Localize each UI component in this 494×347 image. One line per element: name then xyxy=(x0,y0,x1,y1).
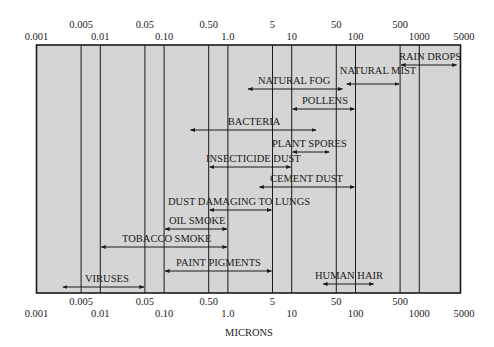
range-label: PLANT SPORES xyxy=(272,138,347,149)
tick-label-top: 50 xyxy=(331,19,342,30)
range-label: RAIN DROPS xyxy=(399,51,461,62)
tick-label-bottom: 0.05 xyxy=(136,296,154,307)
particle-size-chart: 0.0050.050.505505000.0010.010.101.010100… xyxy=(0,0,494,347)
x-axis-title: MICRONS xyxy=(225,327,273,338)
tick-label-bottom: 0.50 xyxy=(200,296,218,307)
tick-label-top: 0.50 xyxy=(200,19,218,30)
tick-label-top: 1.0 xyxy=(221,31,234,42)
tick-label-bottom: 5 xyxy=(270,296,275,307)
range-label: BACTERIA xyxy=(228,116,281,127)
range-label: PAINT PIGMENTS xyxy=(176,257,261,268)
range-label: POLLENS xyxy=(302,95,348,106)
tick-label-bottom: 0.001 xyxy=(25,308,49,319)
tick-label-bottom: 5000 xyxy=(453,308,474,319)
range-label: HUMAN HAIR xyxy=(315,270,383,281)
tick-label-top: 0.05 xyxy=(136,19,154,30)
tick-label-top: 0.01 xyxy=(91,31,109,42)
range-label: OIL SMOKE xyxy=(169,215,225,226)
tick-label-top: 5 xyxy=(270,19,275,30)
tick-label-top: 0.001 xyxy=(25,31,49,42)
tick-label-bottom: 50 xyxy=(331,296,342,307)
range-label: NATURAL FOG xyxy=(258,75,331,86)
range-label: INSECTICIDE DUST xyxy=(206,153,301,164)
range-label: NATURAL MIST xyxy=(340,65,417,76)
tick-label-bottom: 0.005 xyxy=(69,296,93,307)
tick-label-bottom: 500 xyxy=(392,296,408,307)
tick-label-bottom: 0.10 xyxy=(155,308,173,319)
tick-label-top: 10 xyxy=(286,31,297,42)
range-label: TOBACCO SMOKE xyxy=(122,233,211,244)
tick-label-top: 0.10 xyxy=(155,31,173,42)
tick-label-top: 5000 xyxy=(453,31,474,42)
tick-label-top: 500 xyxy=(392,19,408,30)
tick-label-bottom: 100 xyxy=(348,308,364,319)
range-label: VIRUSES xyxy=(85,273,129,284)
tick-label-top: 1000 xyxy=(409,31,430,42)
tick-label-bottom: 1000 xyxy=(409,308,430,319)
range-label: DUST DAMAGING TO LUNGS xyxy=(168,196,310,207)
tick-label-bottom: 0.01 xyxy=(91,308,109,319)
tick-label-bottom: 1.0 xyxy=(221,308,234,319)
tick-label-top: 100 xyxy=(348,31,364,42)
range-label: CEMENT DUST xyxy=(270,173,344,184)
tick-label-top: 0.005 xyxy=(69,19,93,30)
tick-label-bottom: 10 xyxy=(286,308,297,319)
